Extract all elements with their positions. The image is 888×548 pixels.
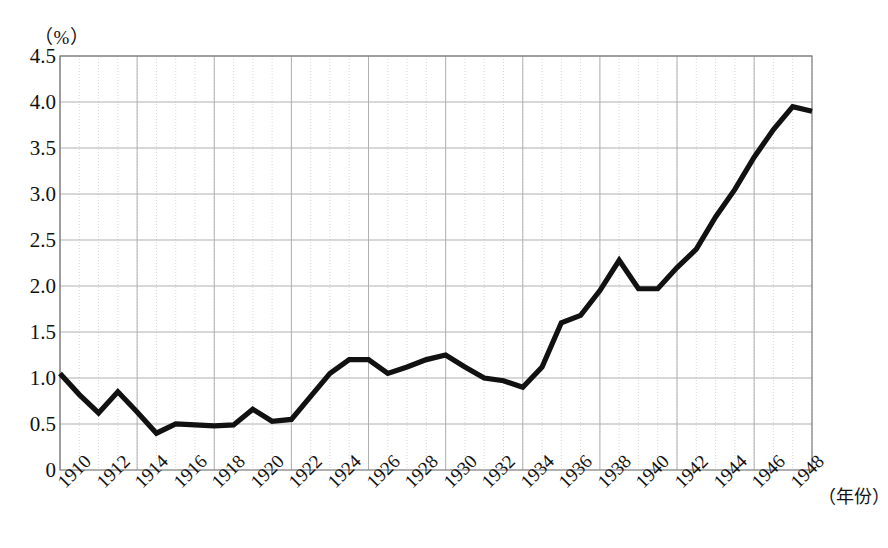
x-axis-tick-label: 1910	[54, 451, 94, 491]
x-axis-tick-label: 1940	[632, 451, 672, 491]
x-axis-title: （年份）	[818, 482, 888, 508]
x-axis-tick-label: 1930	[440, 451, 480, 491]
x-axis-tick-label: 1942	[671, 451, 711, 491]
x-axis-tick-labels: 1910191219141916191819201922192419261928…	[0, 0, 888, 548]
x-axis-tick-label: 1916	[170, 451, 210, 491]
x-axis-tick-label: 1934	[517, 451, 557, 491]
x-axis-tick-label: 1920	[247, 451, 287, 491]
x-axis-tick-label: 1926	[363, 451, 403, 491]
x-axis-tick-label: 1914	[131, 451, 171, 491]
x-axis-tick-label: 1912	[93, 451, 133, 491]
x-axis-tick-label: 1936	[555, 451, 595, 491]
x-axis-tick-label: 1924	[324, 451, 364, 491]
x-axis-tick-label: 1928	[401, 451, 441, 491]
x-axis-tick-label: 1918	[208, 451, 248, 491]
x-axis-tick-label: 1944	[710, 451, 750, 491]
line-chart-figure: （%） 4.54.03.53.02.52.01.51.00.50 1910191…	[0, 0, 888, 548]
x-axis-tick-label: 1932	[478, 451, 518, 491]
x-axis-tick-label: 1938	[594, 451, 634, 491]
x-axis-tick-label: 1922	[285, 451, 325, 491]
x-axis-tick-label: 1946	[748, 451, 788, 491]
